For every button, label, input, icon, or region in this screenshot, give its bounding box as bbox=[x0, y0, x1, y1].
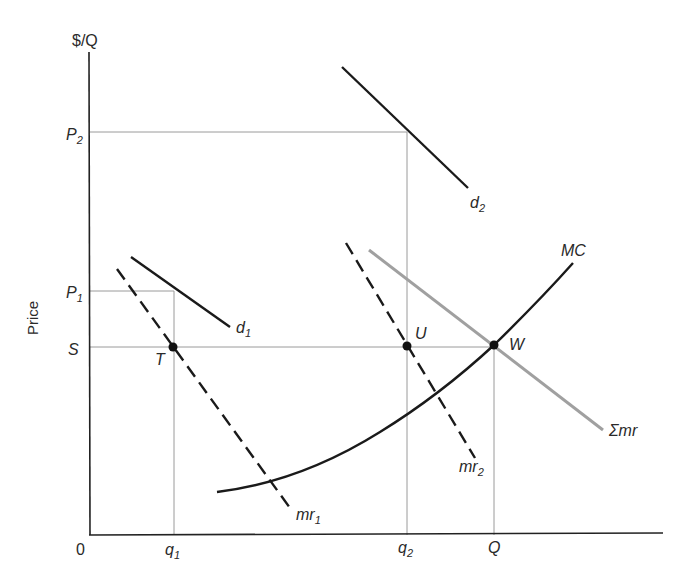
points bbox=[169, 341, 499, 352]
label-mr2: mr2 bbox=[459, 458, 484, 478]
tick-label-q2: q2 bbox=[398, 539, 413, 559]
sum-mr-curve bbox=[369, 250, 603, 430]
x-axis bbox=[89, 533, 663, 535]
d2-curve bbox=[342, 67, 468, 188]
label-sum-mr: Σmr bbox=[608, 422, 638, 439]
label-d2: d2 bbox=[470, 194, 485, 214]
axes bbox=[89, 52, 663, 535]
y-axis bbox=[89, 52, 90, 535]
label-t: T bbox=[155, 351, 166, 368]
label-u: U bbox=[415, 325, 427, 342]
mr2-curve bbox=[346, 243, 475, 458]
label-mr1: mr1 bbox=[296, 506, 321, 526]
tick-label-q1: q1 bbox=[165, 541, 180, 561]
label-w: W bbox=[509, 336, 526, 353]
tick-label-Q: Q bbox=[488, 539, 500, 556]
tick-label-s: S bbox=[68, 341, 79, 358]
point-w bbox=[490, 341, 499, 350]
d1-curve bbox=[131, 257, 230, 327]
point-u bbox=[403, 342, 412, 351]
origin-label: 0 bbox=[76, 541, 85, 558]
label-d1: d1 bbox=[236, 319, 251, 339]
mc-curve bbox=[217, 263, 573, 492]
y-unit-label: $/Q bbox=[72, 32, 98, 49]
curves bbox=[117, 67, 603, 508]
price-discrimination-chart: $/Q Price 0 P2 P1 S q1 q2 Q d2 d1 mr1 mr… bbox=[0, 0, 681, 582]
tick-label-p2: P2 bbox=[66, 126, 83, 146]
y-axis-title: Price bbox=[24, 301, 41, 335]
label-mc: MC bbox=[561, 242, 586, 259]
tick-label-p1: P1 bbox=[66, 284, 83, 304]
mr1-curve bbox=[117, 269, 290, 508]
point-t bbox=[169, 343, 178, 352]
